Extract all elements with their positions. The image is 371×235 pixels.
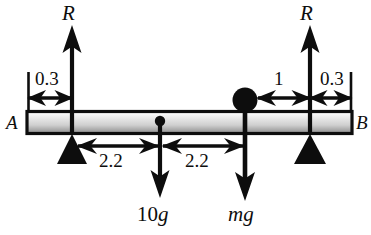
particle-weight-mass: m (228, 202, 243, 226)
right-reaction-label: R (300, 3, 313, 24)
left-support-triangle (57, 134, 87, 164)
dim-right-span-label: 2.2 (185, 151, 209, 170)
dim-particle-to-support-line (256, 90, 312, 106)
dim-right-overhang-label: 0.3 (320, 69, 344, 88)
dim-left-overhang-label: 0.3 (35, 69, 59, 88)
particle-weight-label: mg (228, 204, 254, 225)
left-reaction-label: R (62, 3, 75, 24)
beam-weight-label: 10g (137, 204, 169, 225)
diagram-vector-layer (0, 0, 371, 235)
beam-weight-unit: g (158, 202, 169, 226)
dim-left-span-label: 2.2 (99, 151, 123, 170)
dim-particle-to-support-label: 1 (274, 69, 284, 88)
particle-dot (233, 88, 258, 113)
beam-statics-diagram: R R 0.3 1 0.3 A B 2.2 2.2 10g mg (0, 0, 371, 235)
particle-weight-unit: g (243, 202, 254, 226)
beam-weight-number: 10 (137, 202, 158, 226)
beam-body (27, 112, 352, 134)
beam-right-end-label: B (356, 113, 368, 132)
right-support-triangle (294, 134, 326, 164)
beam-left-end-label: A (6, 113, 18, 132)
beam (27, 112, 352, 134)
